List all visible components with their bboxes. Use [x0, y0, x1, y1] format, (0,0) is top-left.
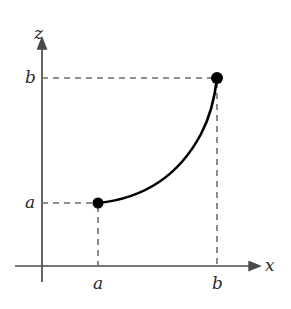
- x-axis-label: x: [265, 257, 275, 274]
- z-axis-tick-label-a: a: [25, 194, 35, 211]
- x-axis-tick-label-a: a: [93, 275, 103, 292]
- x-axis-tick-label-b: b: [212, 275, 223, 292]
- point-b-marker: [211, 72, 223, 84]
- math-figure: z x b a a b: [0, 0, 291, 309]
- point-a-marker: [93, 198, 104, 209]
- z-axis-tick-label-b: b: [25, 69, 36, 86]
- increasing-convex-curve: [98, 78, 217, 203]
- z-axis-label: z: [34, 25, 43, 42]
- figure-canvas: [0, 0, 291, 309]
